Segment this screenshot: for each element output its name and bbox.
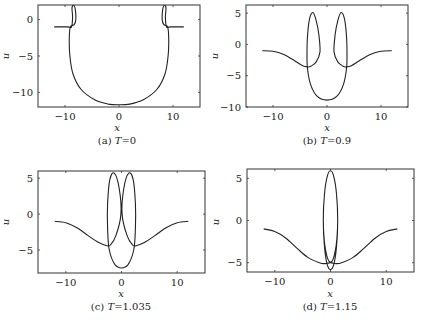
x-tick-label: −10 [55,277,76,288]
x-tick-label: 10 [171,277,184,288]
panel-caption: (c) T=1.035 [91,301,151,312]
x-tick-label: 10 [380,276,393,287]
y-tick-label: 0 [235,39,241,50]
panel-d: −1001050−5xu(d) T=1.15 [210,169,414,312]
y-tick-label: 0 [236,215,242,226]
x-tick-label: −10 [264,276,285,287]
x-tick-label: −10 [262,111,283,122]
data-curve [55,173,189,268]
axes-frame [247,169,414,272]
x-tick-label: 10 [375,111,388,122]
data-curve [54,5,184,105]
y-axis-label: u [209,53,220,59]
x-tick-label: 10 [167,111,180,122]
x-axis-label: x [114,122,120,133]
panel-a: −100100−5−10xu(a) T=0 [0,5,200,146]
y-tick-label: −5 [18,245,33,256]
y-tick-label: −5 [227,257,242,268]
y-tick-label: 5 [235,8,241,19]
y-tick-label: −5 [18,51,33,62]
y-tick-label: −5 [226,70,241,81]
data-curve [262,12,392,100]
y-tick-label: −10 [12,87,33,98]
x-axis-label: x [118,288,124,299]
figure: −100100−5−10xu(a) T=0 −1001050−5−10xu(b)… [0,0,423,320]
panel-c: −1001050−5xu(c) T=1.035 [0,171,205,312]
y-tick-label: 0 [27,209,33,220]
panel-caption: (a) T=0 [98,135,136,146]
y-tick-label: 0 [27,14,33,25]
y-tick-label: 5 [27,173,33,184]
y-tick-label: −10 [220,102,241,113]
panel-caption: (d) T=1.15 [303,301,358,312]
x-axis-label: x [324,122,330,133]
panel-b: −1001050−5−10xu(b) T=0.9 [209,5,408,146]
data-curve [264,171,398,270]
x-tick-label: 0 [327,276,333,287]
x-tick-label: 0 [118,277,124,288]
y-axis-label: u [0,219,11,225]
y-axis-label: u [210,219,221,225]
panel-caption: (b) T=0.9 [303,135,351,146]
x-tick-label: 0 [324,111,330,122]
y-axis-label: u [0,53,11,59]
x-tick-label: 0 [116,111,122,122]
x-tick-label: −10 [54,111,75,122]
x-axis-label: x [327,288,333,299]
axes-frame [38,5,200,107]
axes-frame [246,5,408,107]
y-tick-label: 5 [236,173,242,184]
